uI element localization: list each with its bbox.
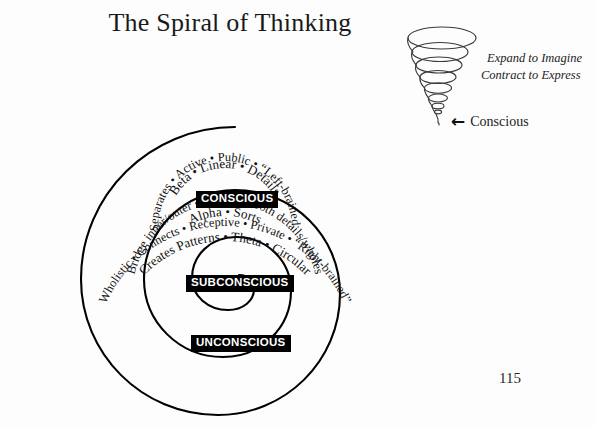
unconscious-traits-outer: Wholistic • Connects • Receptive • Priva… — [96, 215, 354, 305]
conscious-pointer: ← Conscious — [451, 113, 529, 130]
vortex-caption-expand: Expand to Imagine — [487, 51, 582, 66]
vortex-caption-contract: Contract to Express — [481, 68, 581, 83]
page-number: 115 — [499, 370, 521, 387]
badge-conscious: CONSCIOUS — [196, 191, 278, 208]
spiral-diagram: Beta • Linear • Details Separates • Acti… — [20, 88, 420, 418]
left-arrow-icon: ← — [451, 113, 465, 130]
badge-unconscious: UNCONSCIOUS — [191, 335, 291, 352]
page-title: The Spiral of Thinking — [0, 8, 460, 38]
conscious-pointer-label: Conscious — [470, 114, 528, 130]
diagram-page: The Spiral of Thinking Expand to Imagine… — [0, 0, 597, 426]
badge-subconscious: SUBCONSCIOUS — [186, 275, 294, 292]
unconscious-line-outer: Wholistic • Connects • Receptive • Priva… — [96, 215, 354, 305]
